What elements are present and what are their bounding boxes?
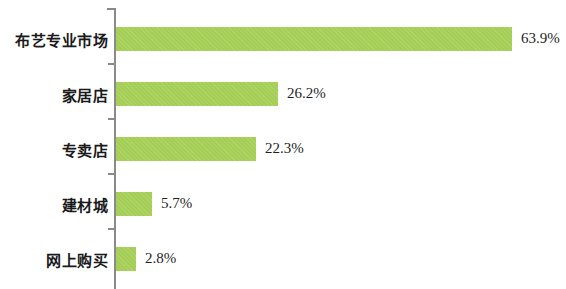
category-label: 网上购买	[46, 248, 108, 269]
category-label: 建材城	[62, 193, 109, 214]
bar-chart: 布艺专业市场 63.9% 家居店 26.2% 专卖店 22.3% 建材城 5.7…	[0, 0, 566, 289]
bar-value-label: 5.7%	[161, 195, 192, 212]
category-label: 专卖店	[62, 138, 109, 159]
bar[interactable]	[116, 27, 512, 51]
bar-row: 家居店 26.2%	[0, 66, 566, 121]
bar-row: 布艺专业市场 63.9%	[0, 11, 566, 66]
bar-group: 2.8%	[116, 247, 176, 271]
bar[interactable]	[116, 82, 278, 106]
bar-value-label: 63.9%	[521, 30, 560, 47]
bar-row: 专卖店 22.3%	[0, 121, 566, 176]
bar[interactable]	[116, 247, 136, 271]
bar-group: 5.7%	[116, 192, 192, 216]
bar-group: 26.2%	[116, 82, 326, 106]
category-label: 家居店	[62, 83, 109, 104]
bar-group: 22.3%	[116, 137, 304, 161]
bar-row: 建材城 5.7%	[0, 176, 566, 231]
bar-value-label: 26.2%	[287, 85, 326, 102]
bar[interactable]	[116, 137, 256, 161]
bar-group: 63.9%	[116, 27, 560, 51]
bar-value-label: 22.3%	[265, 140, 304, 157]
category-label: 布艺专业市场	[15, 28, 108, 49]
bar[interactable]	[116, 192, 152, 216]
bar-row: 网上购买 2.8%	[0, 231, 566, 286]
bar-value-label: 2.8%	[145, 250, 176, 267]
